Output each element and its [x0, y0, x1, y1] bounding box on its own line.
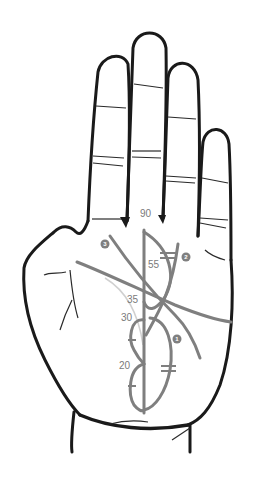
- line-badge-1: 1: [173, 335, 182, 344]
- hand-outline: [24, 33, 233, 452]
- palmistry-diagram: 90 55 35 30 20 1 2 3: [0, 0, 255, 489]
- palm-lines: [77, 230, 231, 413]
- age-label-35: 35: [127, 294, 139, 305]
- line-badge-2: 2: [182, 253, 191, 262]
- age-label-90: 90: [140, 208, 152, 219]
- age-label-30: 30: [121, 312, 133, 323]
- age-label-20: 20: [119, 360, 131, 371]
- line-badge-3: 3: [101, 240, 110, 249]
- loop-20: [130, 364, 144, 411]
- age-label-55: 55: [148, 259, 160, 270]
- hand-illustration: 90 55 35 30 20 1 2 3: [0, 0, 255, 489]
